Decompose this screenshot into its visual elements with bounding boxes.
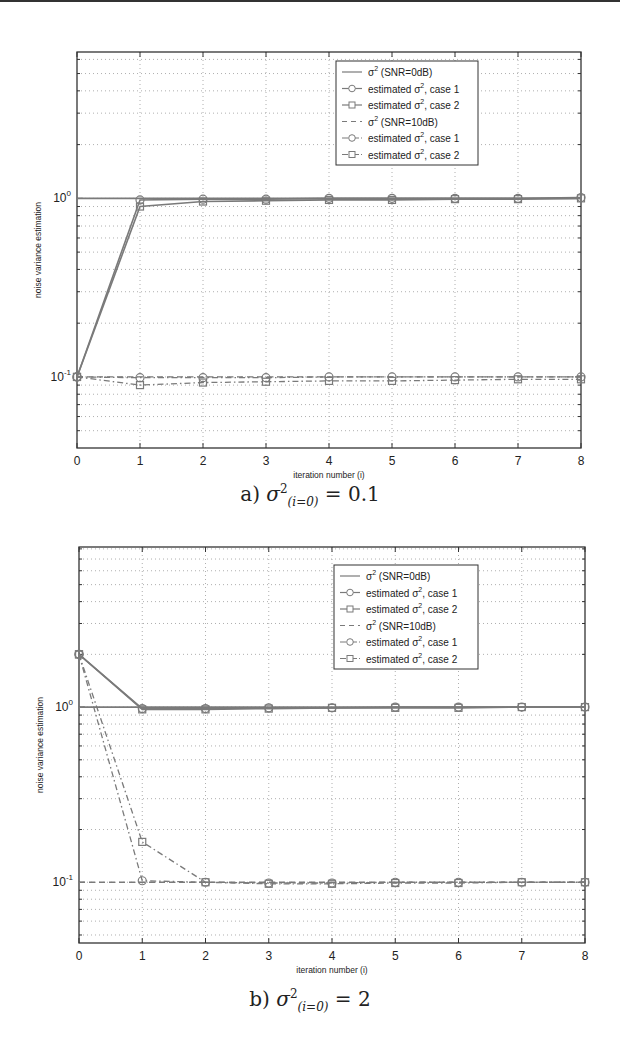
- svg-text:5: 5: [389, 454, 396, 468]
- svg-text:100: 100: [53, 189, 71, 205]
- caption-sup: 2: [290, 987, 298, 1001]
- svg-text:estimated σ2, case 1: estimated σ2, case 1: [366, 586, 458, 599]
- svg-text:10-1: 10-1: [53, 873, 74, 889]
- svg-text:2: 2: [200, 454, 207, 468]
- svg-text:0: 0: [76, 949, 83, 963]
- svg-text:7: 7: [518, 949, 525, 963]
- svg-text:4: 4: [329, 949, 336, 963]
- svg-text:σ2 (SNR=0dB): σ2 (SNR=0dB): [366, 569, 430, 582]
- svg-text:0: 0: [74, 454, 81, 468]
- svg-text:σ2 (SNR=10dB): σ2 (SNR=10dB): [366, 619, 436, 632]
- svg-text:estimated σ2, case 2: estimated σ2, case 2: [368, 98, 460, 111]
- svg-text:6: 6: [455, 949, 462, 963]
- svg-text:σ2 (SNR=10dB): σ2 (SNR=10dB): [368, 115, 438, 128]
- caption-sub: (i=0): [298, 1000, 329, 1014]
- chart-panel-b: 01234567810010-1iteration number (i)nois…: [0, 535, 620, 980]
- caption-label: a): [240, 482, 260, 506]
- svg-text:estimated σ2, case 2: estimated σ2, case 2: [366, 652, 458, 665]
- svg-text:3: 3: [265, 949, 272, 963]
- svg-text:iteration number (i): iteration number (i): [293, 470, 365, 480]
- svg-text:8: 8: [582, 949, 589, 963]
- svg-text:3: 3: [263, 454, 270, 468]
- svg-text:estimated σ2, case 1: estimated σ2, case 1: [368, 82, 460, 95]
- svg-text:noise variance estimation: noise variance estimation: [33, 202, 43, 298]
- svg-text:estimated σ2, case 1: estimated σ2, case 1: [366, 635, 458, 648]
- svg-text:iteration number (i): iteration number (i): [296, 965, 368, 975]
- svg-text:7: 7: [515, 454, 522, 468]
- caption-symbol: σ: [276, 987, 290, 1011]
- svg-text:5: 5: [392, 949, 399, 963]
- caption-panel-b: b) σ2(i=0) = 2: [0, 987, 620, 1014]
- svg-text:σ2 (SNR=0dB): σ2 (SNR=0dB): [368, 65, 432, 78]
- caption-label: b): [249, 987, 270, 1011]
- svg-text:1: 1: [137, 454, 144, 468]
- svg-text:6: 6: [452, 454, 459, 468]
- chart-panel-a: 01234567810010-1iteration number (i)nois…: [0, 40, 620, 485]
- svg-text:4: 4: [326, 454, 333, 468]
- svg-text:100: 100: [55, 698, 73, 714]
- svg-text:estimated σ2, case 2: estimated σ2, case 2: [368, 148, 460, 161]
- page-top-rule: [0, 0, 620, 6]
- caption-value: = 2: [335, 987, 371, 1011]
- svg-text:noise variance estimation: noise variance estimation: [35, 697, 45, 793]
- svg-text:estimated σ2, case 2: estimated σ2, case 2: [366, 602, 458, 615]
- caption-value: = 0.1: [325, 482, 380, 506]
- svg-text:8: 8: [578, 454, 585, 468]
- svg-text:1: 1: [139, 949, 146, 963]
- svg-text:2: 2: [202, 949, 209, 963]
- caption-panel-a: a) σ2(i=0) = 0.1: [0, 482, 620, 509]
- caption-sub: (i=0): [288, 495, 319, 509]
- cropped-text-line: [0, 1048, 620, 1058]
- caption-sup: 2: [280, 482, 288, 496]
- caption-symbol: σ: [266, 482, 280, 506]
- svg-text:estimated σ2, case 1: estimated σ2, case 1: [368, 131, 460, 144]
- svg-text:10-1: 10-1: [51, 368, 72, 384]
